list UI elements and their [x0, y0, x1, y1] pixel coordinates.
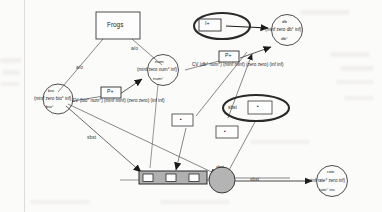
box-influence-top [199, 19, 221, 31]
correspondence-cv-db-num: CV (db° num°) (minf minf) (zero zero) (i… [192, 63, 283, 68]
box-label-influence-top: I+ [205, 21, 209, 26]
group-ellipse-sbst-label: sbst [228, 106, 237, 111]
box-label-small-a: ▪ [180, 117, 182, 122]
edge-prop-right-to-db [240, 47, 271, 58]
node-circle-hub [209, 167, 235, 193]
edge-label-frogs-to-bio: a/o [76, 65, 83, 70]
edge-label-frogs-to-num: a/o [131, 46, 138, 51]
box-strip-2 [166, 174, 176, 182]
node-label-db-top: db [282, 20, 287, 24]
edge-bio-to-strip [66, 106, 141, 172]
node-label-rate-top: rate [327, 170, 335, 174]
edge-label-hub-to-rate: sbst [250, 177, 259, 182]
box-small-a [172, 114, 193, 126]
node-label-num-bottom: num° [153, 77, 163, 81]
node-label-rate-interval: (minf rate° zero inf) [306, 179, 345, 184]
edge-num-to-strip [150, 84, 158, 168]
box-label-prop-right: P+ [225, 53, 232, 58]
node-label-rate-bottom: rate° inc [319, 188, 335, 192]
box-small-c [216, 126, 238, 138]
node-label-bio-bottom: bio° [46, 105, 54, 109]
diagram-canvas: Frogs I+ P+ P+ ▪ ▪ ▪ bio (minf zero bio°… [0, 0, 382, 212]
box-label-frogs: Frogs [107, 22, 123, 28]
correspondence-cv-bio-num: CV (bio° num°) (minf minf) (zero zero) (… [72, 99, 165, 104]
box-strip-1 [143, 174, 153, 182]
node-label-db-bottom: db° [281, 37, 288, 41]
box-small-b [248, 101, 272, 114]
node-label-bio-interval: (minf zero bio° inf) [34, 97, 71, 102]
box-label-small-b: ▪ [257, 104, 259, 109]
edge-influence-to-db [226, 26, 268, 28]
box-label-prop-mid: P+ [107, 89, 114, 94]
node-label-num-top: num [155, 60, 164, 64]
node-label-num-interval: (minf zero num° inf) [137, 68, 177, 73]
node-label-hub-top: sbst [216, 165, 224, 169]
node-label-bio-top: bio [48, 89, 54, 93]
edge-smallbox-to-strip [176, 128, 186, 170]
box-label-small-c: ▪ [224, 129, 226, 134]
box-strip-3 [189, 174, 199, 182]
edge-prop-mid-to-num [120, 79, 142, 94]
node-label-db-interval: (minf zero db° inf) [265, 28, 301, 33]
edge-label-bio-to-strip: sbst [87, 135, 96, 140]
